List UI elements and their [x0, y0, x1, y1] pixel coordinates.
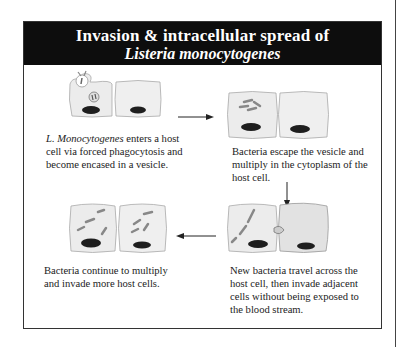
- arrow-left-icon: [176, 232, 216, 240]
- step3-caption: New bacteria travel across the host cell…: [230, 264, 359, 316]
- step4-caption: Bacteria continue to multiply and invade…: [44, 264, 168, 290]
- arrow-right-icon: [178, 113, 214, 121]
- title-line-1: Invasion & intracellular spread of: [24, 26, 381, 46]
- step1-organism-name: L. Monocytogenes: [46, 133, 124, 144]
- step1-caption: L. Monocytogenes enters a host cell via …: [46, 132, 183, 171]
- step1-illustration: [66, 70, 166, 120]
- step4-illustration: [68, 202, 168, 254]
- step2-illustration: [226, 90, 330, 140]
- diagram-header: Invasion & intracellular spread of Liste…: [24, 22, 381, 65]
- page-margin-line: [395, 0, 396, 347]
- title-line-2: Listeria monocytogenes: [24, 45, 381, 63]
- step2-caption: Bacteria escape the vesicle and multiply…: [232, 145, 368, 184]
- step3-illustration: [226, 200, 330, 254]
